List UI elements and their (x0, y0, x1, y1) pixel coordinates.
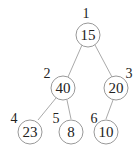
node-value: 10 (99, 124, 114, 140)
tree-node-4: 23 4 (11, 111, 43, 145)
edge-3-6 (106, 100, 113, 119)
tree-node-6: 10 6 (91, 111, 119, 145)
node-index: 1 (83, 6, 90, 21)
node-index: 6 (91, 111, 98, 126)
node-index: 4 (11, 111, 18, 126)
node-value: 20 (109, 80, 124, 96)
edge-2-5 (67, 100, 71, 119)
node-value: 40 (56, 80, 71, 96)
node-index: 2 (44, 66, 51, 81)
edge-1-2 (68, 45, 82, 77)
node-value: 8 (67, 124, 75, 140)
tree-diagram: 15 1 40 2 20 3 23 4 8 5 10 6 (0, 0, 139, 157)
node-value: 23 (23, 124, 38, 140)
node-value: 15 (81, 27, 96, 43)
tree-node-5: 8 5 (53, 111, 84, 145)
edge-1-3 (95, 45, 112, 77)
tree-node-1: 15 1 (76, 6, 100, 48)
node-index: 5 (53, 111, 60, 126)
node-index: 3 (126, 66, 133, 81)
